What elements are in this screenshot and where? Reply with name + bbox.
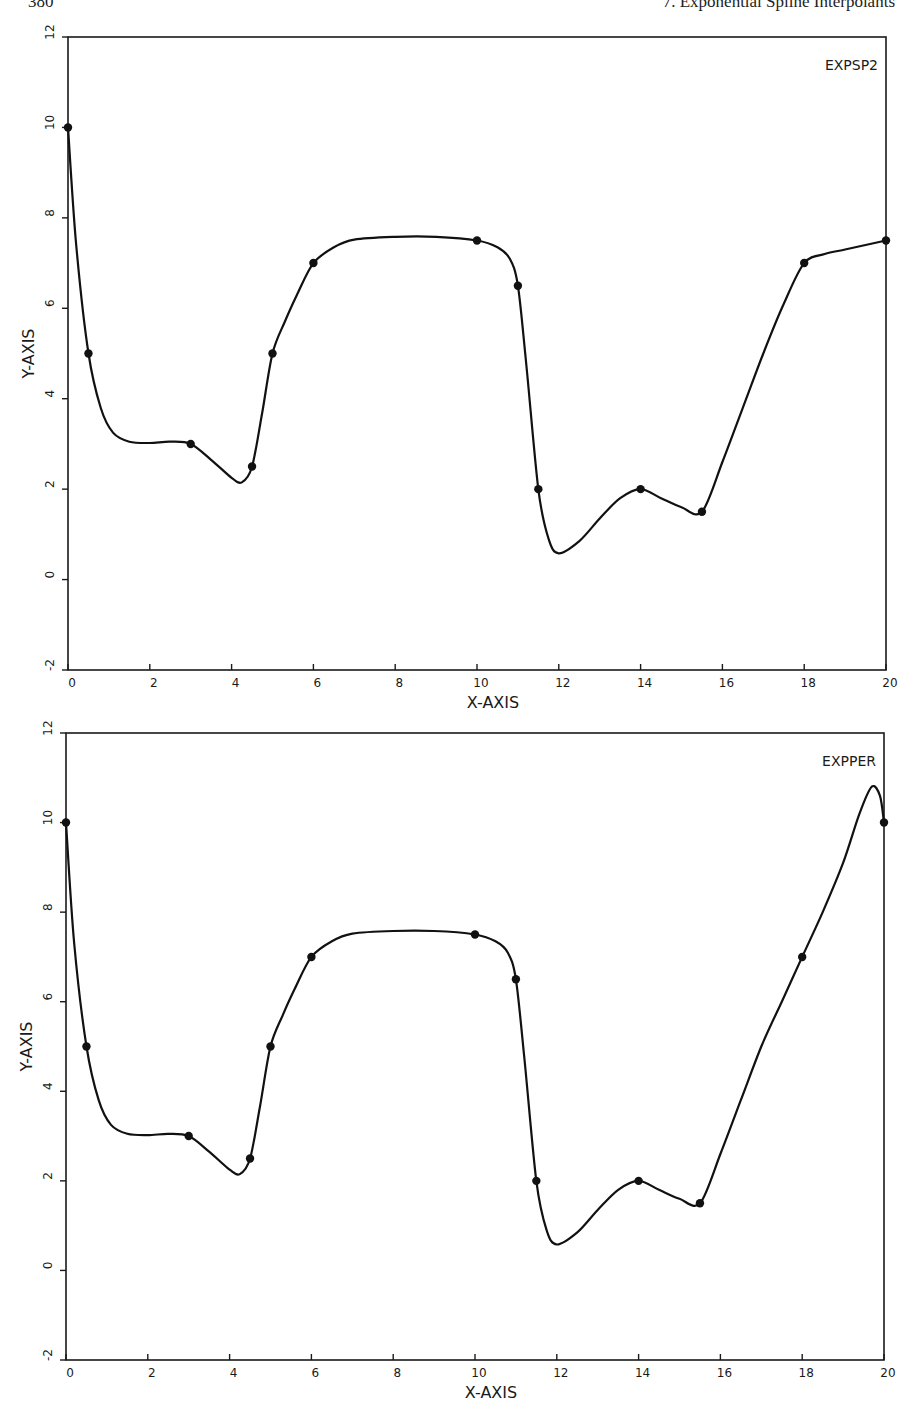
data-point-marker [636, 485, 644, 493]
x-tick-label: 16 [717, 1366, 732, 1380]
data-point-marker [82, 1042, 90, 1050]
data-point-marker [634, 1177, 642, 1185]
x-tick-label: 8 [393, 1366, 401, 1380]
y-tick-label: -2 [41, 1349, 55, 1361]
x-tick-label: 10 [473, 676, 488, 690]
data-point-marker [187, 440, 195, 448]
data-point-marker [882, 236, 890, 244]
x-tick-label: 18 [801, 676, 816, 690]
plot-title-label: EXPPER [822, 753, 876, 769]
x-tick-label: 0 [66, 1366, 74, 1380]
x-tick-label: 14 [635, 1366, 650, 1380]
data-point-marker [64, 123, 72, 131]
data-point-marker [268, 349, 276, 357]
y-axis-title: Y-AXIS [19, 328, 38, 379]
y-tick-label: 2 [41, 1172, 55, 1180]
data-point-marker [514, 281, 522, 289]
x-tick-label: 14 [637, 676, 652, 690]
y-tick-label: 0 [41, 1262, 55, 1270]
x-tick-label: 8 [395, 676, 403, 690]
y-tick-label: 8 [43, 209, 57, 217]
spline-curve [68, 127, 886, 553]
data-point-marker [248, 462, 256, 470]
x-tick-label: 12 [553, 1366, 568, 1380]
plots-canvas: 02468101214161820-2024681012X-AXISY-AXIS… [0, 0, 899, 1414]
data-point-marker [880, 818, 888, 826]
data-point-marker [266, 1042, 274, 1050]
y-tick-label: 0 [43, 571, 57, 579]
data-point-marker [309, 259, 317, 267]
y-tick-label: 6 [41, 993, 55, 1001]
x-tick-label: 6 [312, 1366, 320, 1380]
x-tick-label: 20 [882, 676, 897, 690]
data-point-marker [185, 1132, 193, 1140]
y-tick-label: 8 [41, 903, 55, 911]
data-point-marker [698, 508, 706, 516]
data-point-marker [532, 1177, 540, 1185]
x-tick-label: 18 [799, 1366, 814, 1380]
x-tick-label: 0 [68, 676, 76, 690]
y-tick-label: 4 [41, 1082, 55, 1090]
x-tick-label: 4 [230, 1366, 238, 1380]
x-tick-label: 6 [314, 676, 322, 690]
y-tick-label: 2 [43, 480, 57, 488]
x-tick-label: 2 [150, 676, 158, 690]
x-tick-label: 10 [471, 1366, 486, 1380]
x-tick-label: 4 [232, 676, 240, 690]
x-tick-label: 2 [148, 1366, 156, 1380]
data-point-marker [798, 953, 806, 961]
plot-title-label: EXPSP2 [825, 57, 878, 73]
y-tick-label: -2 [43, 659, 57, 671]
y-axis-title: Y-AXIS [17, 1021, 36, 1072]
spline-curve [66, 786, 884, 1245]
plot-expsp2: 02468101214161820-2024681012X-AXISY-AXIS… [19, 24, 898, 712]
data-point-marker [534, 485, 542, 493]
y-tick-label: 12 [43, 24, 57, 39]
data-point-marker [800, 259, 808, 267]
data-point-marker [62, 818, 70, 826]
y-tick-label: 6 [43, 299, 57, 307]
data-point-marker [84, 349, 92, 357]
data-point-marker [307, 953, 315, 961]
x-axis-title: X-AXIS [467, 693, 519, 712]
data-point-marker [471, 930, 479, 938]
data-point-marker [696, 1199, 704, 1207]
y-tick-label: 4 [43, 390, 57, 398]
y-tick-label: 10 [43, 115, 57, 130]
data-point-marker [512, 975, 520, 983]
x-tick-label: 12 [555, 676, 570, 690]
x-tick-label: 20 [880, 1366, 895, 1380]
y-tick-label: 10 [41, 810, 55, 825]
data-point-marker [473, 236, 481, 244]
y-tick-label: 12 [41, 720, 55, 735]
data-point-marker [246, 1154, 254, 1162]
x-tick-label: 16 [719, 676, 734, 690]
x-axis-title: X-AXIS [465, 1383, 517, 1402]
plot-expper: 02468101214161820-2024681012X-AXISY-AXIS… [17, 720, 896, 1402]
